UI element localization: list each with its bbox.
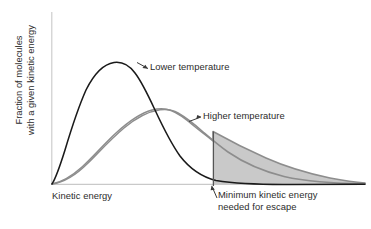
y-axis-label-line2: with a given kinetic energy — [25, 0, 37, 165]
lower-temperature-arrowhead — [142, 65, 147, 69]
escape-region-shading — [213, 132, 365, 185]
x-axis-label: Kinetic energy — [52, 190, 112, 201]
threshold-arrowhead — [211, 186, 215, 191]
minimum-energy-label-line2: needed for escape — [218, 201, 348, 213]
y-axis-label: Fraction of molecules with a given kinet… — [13, 0, 53, 165]
minimum-energy-label: Minimum kinetic energy needed for escape — [218, 189, 348, 212]
lower-temperature-curve — [52, 62, 365, 184]
y-axis-label-line1: Fraction of molecules — [13, 0, 25, 165]
higher-temperature-arrowhead — [196, 115, 201, 119]
kinetic-energy-distribution-figure: Fraction of molecules with a given kinet… — [0, 0, 371, 229]
lower-temperature-label: Lower temperature — [150, 61, 230, 72]
minimum-energy-label-line1: Minimum kinetic energy — [218, 189, 348, 201]
higher-temperature-label: Higher temperature — [203, 110, 285, 121]
